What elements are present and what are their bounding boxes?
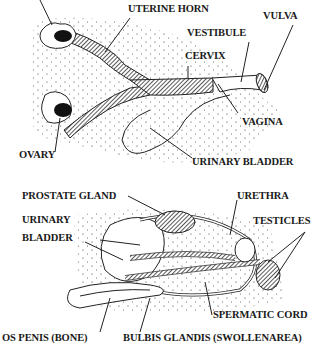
label-prostate-gland: PROSTATE GLAND [22,191,116,202]
label-spermatic-cord: SPERMATIC CORD [213,310,307,321]
female-tract [30,0,293,163]
label-vestibule: VESTIBULE [187,28,246,39]
label-urethra: URETHRA [237,191,289,202]
label-urinary-bladder-female: URINARY BLADDER [192,157,293,168]
label-urinary-bladder-male-line1: URINARY [22,215,71,226]
ovary-lower [54,103,72,117]
prostate-gland-shape [155,211,195,233]
label-urinary-bladder-male-line2: BLADDER [22,233,73,244]
label-bulbis-glandis: BULBIS GLANDIS (SWOLLENAREA) [123,333,302,344]
label-uterine-horn: UTERINE HORN [128,4,209,15]
testicle-back [235,238,255,262]
ovary-upper [54,30,72,42]
label-vagina: VAGINA [242,117,283,128]
label-cervix: CERVIX [185,51,225,62]
label-os-penis: OS PENIS (BONE) [2,333,87,344]
label-testicles: TESTICLES [253,216,310,227]
label-ovary: OVARY [19,150,55,161]
anatomy-drawing [0,0,322,356]
label-vulva: VULVA [263,11,298,22]
